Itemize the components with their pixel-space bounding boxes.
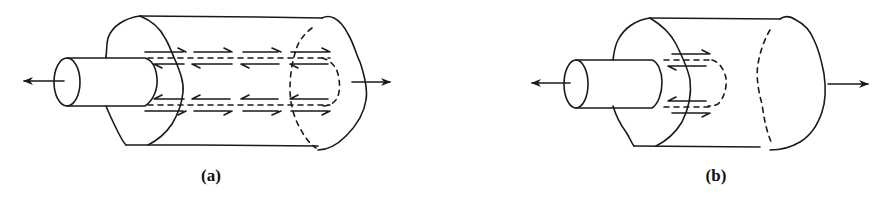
panel-b-diagram: [532, 17, 868, 150]
shear-arrows-lower-a: [145, 95, 330, 115]
shear-arrows-lower-b: [664, 97, 712, 117]
shear-arrows-upper-b: [664, 50, 712, 70]
panel-label-b: (b): [706, 166, 727, 186]
panel-label-a: (a): [201, 166, 221, 186]
shear-arrows-upper-a: [145, 48, 330, 68]
matrix-cylinder-a: [106, 16, 367, 150]
figure-canvas: [0, 0, 892, 198]
fiber-rod-b: [564, 60, 662, 108]
matrix-cylinder-b: [613, 17, 825, 150]
panel-a-diagram: [24, 16, 390, 150]
fiber-rod-a: [54, 58, 157, 106]
